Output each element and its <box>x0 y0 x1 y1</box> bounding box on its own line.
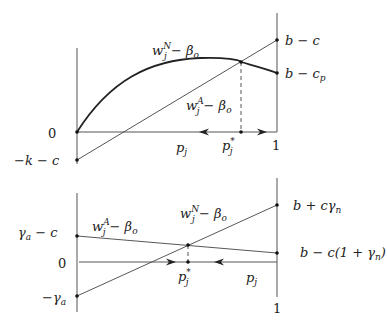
diagram: wNj − βo wAj − βo 0 −k − c b − c b − cp … <box>0 0 387 329</box>
bottom-bc1g-dot <box>275 251 279 255</box>
top-intersection-dot <box>239 60 243 64</box>
top-wN-curve <box>77 58 277 132</box>
bottom-pstar-label: p*j <box>178 267 191 287</box>
top-zero-label: 0 <box>48 126 56 141</box>
bottom-bc1g-label: b − c(1 + γn) <box>300 245 386 262</box>
bottom-bcg-label: b + cγn <box>293 198 342 215</box>
bottom-gac-label: γa − c <box>18 225 58 242</box>
bottom-pstar-dot <box>186 260 190 264</box>
top-bcp-label: b − cp <box>285 66 326 83</box>
bottom-pj-label: pj <box>246 270 257 287</box>
bottom-panel: wAj − βo wNj − βo γa − c 0 −γa b + cγn b… <box>18 178 386 316</box>
top-pj-label: pj <box>176 140 187 157</box>
top-kc-label: −k − c <box>14 153 60 168</box>
bottom-bcg-dot <box>275 203 279 207</box>
bottom-zero-label: 0 <box>58 256 66 271</box>
top-kc-dot <box>75 158 79 162</box>
bottom-ga-dot <box>75 294 79 298</box>
top-one-label: 1 <box>272 138 280 153</box>
top-origin-dot <box>75 130 79 134</box>
top-pstar-dot <box>239 130 243 134</box>
top-panel: wNj − βo wAj − βo 0 −k − c b − c b − cp … <box>14 13 326 168</box>
top-wA-label: wAj − βo <box>186 96 232 116</box>
top-bcp-dot <box>275 71 279 75</box>
top-bc-dot <box>275 38 279 42</box>
bottom-wA-label: wAj − βo <box>92 217 138 237</box>
bottom-wN-label: wNj − βo <box>180 204 228 224</box>
bottom-one-label: 1 <box>273 301 281 316</box>
top-pstar-label: p*j <box>222 136 235 156</box>
bottom-intersection-dot <box>186 243 190 247</box>
bottom-gac-dot <box>75 234 79 238</box>
bottom-ga-label: −γa <box>42 290 66 307</box>
top-bc-label: b − c <box>285 33 320 48</box>
